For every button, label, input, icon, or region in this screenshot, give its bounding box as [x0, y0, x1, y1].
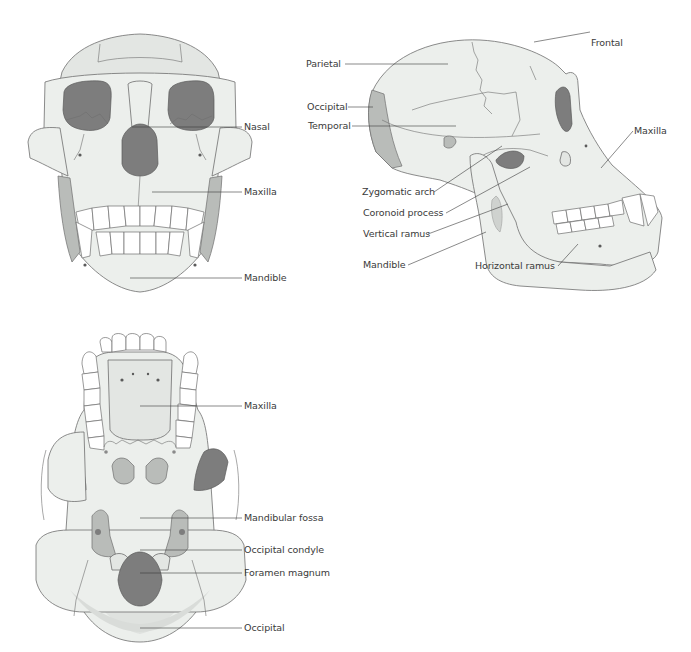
label-zygomatic-arch: Zygomatic arch: [362, 186, 435, 198]
skull-anatomy-diagram: Nasal Maxilla Mandible Frontal Parietal …: [0, 0, 691, 652]
label-parietal: Parietal: [306, 58, 341, 70]
label-temporal: Temporal: [308, 120, 351, 132]
label-mandible-lateral: Mandible: [363, 259, 405, 271]
label-horizontal-ramus: Horizontal ramus: [475, 260, 555, 272]
label-vertical-ramus: Vertical ramus: [363, 228, 430, 240]
label-maxilla-inferior: Maxilla: [244, 400, 277, 412]
label-occipital-inferior: Occipital: [244, 622, 285, 634]
label-coronoid-process: Coronoid process: [363, 207, 443, 219]
label-nasal: Nasal: [244, 121, 270, 133]
lateral-view-skull: [369, 40, 662, 291]
leader-maxilla-lat: [601, 131, 633, 168]
label-frontal: Frontal: [591, 37, 623, 49]
label-foramen-magnum: Foramen magnum: [244, 567, 330, 579]
frontal-view-skull: [28, 34, 252, 292]
leader-frontal: [534, 32, 590, 42]
label-maxilla-lateral: Maxilla: [634, 125, 667, 137]
label-mandibular-fossa: Mandibular fossa: [244, 512, 323, 524]
label-maxilla-front: Maxilla: [244, 186, 277, 198]
label-occipital-lateral: Occipital: [307, 101, 348, 113]
label-mandible-front: Mandible: [244, 272, 286, 284]
inferior-view-skull: [36, 334, 246, 643]
label-occipital-condyle: Occipital condyle: [244, 544, 324, 556]
